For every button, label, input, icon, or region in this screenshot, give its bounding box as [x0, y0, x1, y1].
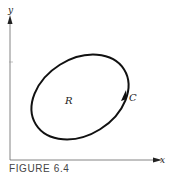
y-axis-arrow-icon	[8, 15, 13, 24]
x-axis-label: x	[160, 155, 165, 165]
curve-label: C	[129, 92, 137, 103]
figure-caption: FIGURE 6.4	[9, 163, 69, 174]
figure-diagram: y x R C	[0, 0, 169, 180]
y-axis-label: y	[7, 5, 14, 15]
region-label: R	[64, 95, 73, 106]
